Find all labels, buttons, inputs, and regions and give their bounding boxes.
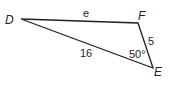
vertex-label-d: D — [5, 13, 14, 27]
side-label-df: e — [83, 7, 89, 19]
side-label-fe: 5 — [148, 35, 154, 47]
vertex-label-e: E — [154, 65, 163, 79]
triangle-diagram: D F E e 16 5 50° — [0, 0, 170, 93]
angle-label-e: 50° — [129, 48, 146, 60]
vertex-label-f: F — [138, 9, 146, 23]
side-label-de: 16 — [80, 47, 92, 59]
triangle-def — [21, 19, 153, 68]
